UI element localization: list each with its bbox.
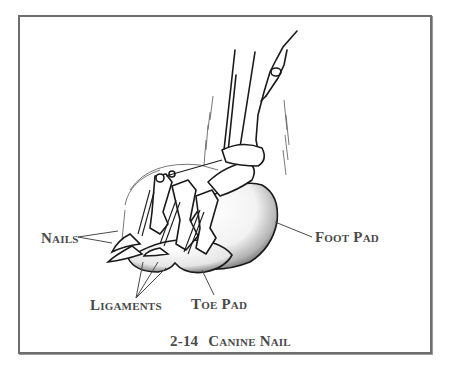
label-ligaments: Ligaments [90,298,162,313]
canine-paw-illustration [0,0,455,372]
label-nails: Nails [41,231,79,246]
label-foot-pad: Foot Pad [315,230,379,245]
figure-number: 2-14 [170,333,198,349]
figure-caption: 2-14 Canine Nail [170,334,291,349]
figure-title: Canine Nail [208,333,291,349]
label-toe-pad: Toe Pad [191,297,247,312]
